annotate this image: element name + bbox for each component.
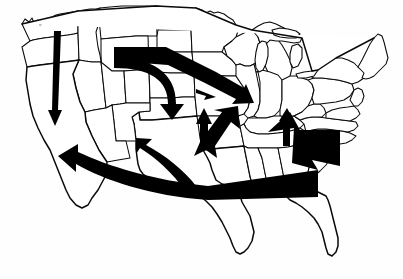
state-colorado — [124, 70, 150, 103]
migration-flow-map: United States Migration Flow Map Outline… — [0, 0, 403, 279]
lake-huron — [290, 44, 302, 68]
map-canvas — [0, 0, 403, 279]
state-mid-atlantic — [326, 106, 360, 121]
